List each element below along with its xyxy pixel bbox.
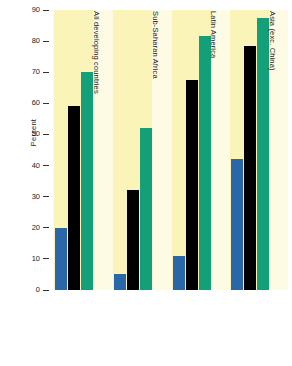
y-tick-label: 0	[18, 285, 40, 295]
y-tick-mark	[43, 290, 49, 291]
y-tick: 10	[0, 254, 53, 264]
y-tick-label: 60	[18, 98, 40, 108]
chart-legend: 1970 1990–91 1983	[0, 300, 292, 366]
y-tick-label: 90	[18, 5, 40, 15]
y-tick-label: 30	[18, 192, 40, 202]
category-label: Latin America	[209, 11, 218, 58]
y-tick-label: 10	[18, 254, 40, 264]
y-tick-mark	[43, 196, 49, 197]
y-tick-label: 40	[18, 161, 40, 171]
y-tick-mark	[43, 72, 49, 73]
y-tick-mark	[43, 227, 49, 228]
y-tick: 20	[0, 223, 53, 233]
bar	[68, 106, 80, 290]
y-tick-mark	[43, 134, 49, 135]
y-tick: 80	[0, 36, 53, 46]
plot-area: All developing countriesSub-Saharan Afri…	[53, 10, 288, 290]
bar	[244, 46, 256, 290]
category-label: Asia (exc. China)	[268, 11, 277, 71]
y-tick: 30	[0, 192, 53, 202]
y-tick-label: 50	[18, 129, 40, 139]
y-tick: 40	[0, 161, 53, 171]
y-tick: 50	[0, 129, 53, 139]
bar	[231, 159, 243, 290]
category-label: Sub-Saharan Africa	[151, 11, 160, 79]
bar	[55, 228, 67, 290]
chart-figure: Percent 0102030405060708090 All developi…	[0, 0, 292, 366]
bar	[186, 80, 198, 290]
y-tick-mark	[43, 165, 49, 166]
y-tick-mark	[43, 258, 49, 259]
bar	[140, 128, 152, 290]
bar	[199, 36, 211, 290]
category-label: All developing countries	[92, 11, 101, 94]
bar	[81, 72, 93, 290]
y-tick-mark	[43, 103, 49, 104]
bar	[173, 256, 185, 290]
y-tick-label: 20	[18, 223, 40, 233]
y-tick: 70	[0, 67, 53, 77]
bar	[127, 190, 139, 290]
y-tick: 90	[0, 5, 53, 15]
y-tick-mark	[43, 41, 49, 42]
bar	[114, 274, 126, 290]
y-tick: 0	[0, 285, 53, 295]
y-tick-label: 70	[18, 67, 40, 77]
y-tick-label: 80	[18, 36, 40, 46]
y-tick: 60	[0, 98, 53, 108]
y-tick-mark	[43, 10, 49, 11]
